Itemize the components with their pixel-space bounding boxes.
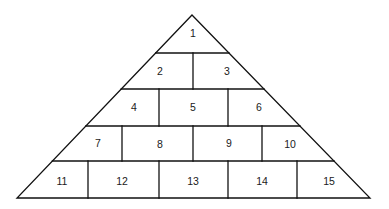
cell-label-7: 7 <box>95 137 101 149</box>
cell-label-10: 10 <box>284 138 296 150</box>
cell-label-4: 4 <box>131 101 137 113</box>
cell-label-2: 2 <box>157 65 163 77</box>
pyramid-canvas: 123456789101112131415 <box>0 0 389 209</box>
cell-label-9: 9 <box>226 137 232 149</box>
cell-label-13: 13 <box>187 175 199 187</box>
cell-label-6: 6 <box>256 101 262 113</box>
cell-label-12: 12 <box>116 175 128 187</box>
cell-label-11: 11 <box>57 175 68 187</box>
cell-label-5: 5 <box>190 101 196 113</box>
cell-label-14: 14 <box>256 175 268 187</box>
cell-label-1: 1 <box>190 27 196 39</box>
cell-labels: 123456789101112131415 <box>57 27 335 187</box>
cell-label-15: 15 <box>323 175 335 187</box>
pyramid-diagram: 123456789101112131415 <box>0 0 389 209</box>
cell-label-3: 3 <box>224 65 230 77</box>
cell-label-8: 8 <box>157 138 163 150</box>
